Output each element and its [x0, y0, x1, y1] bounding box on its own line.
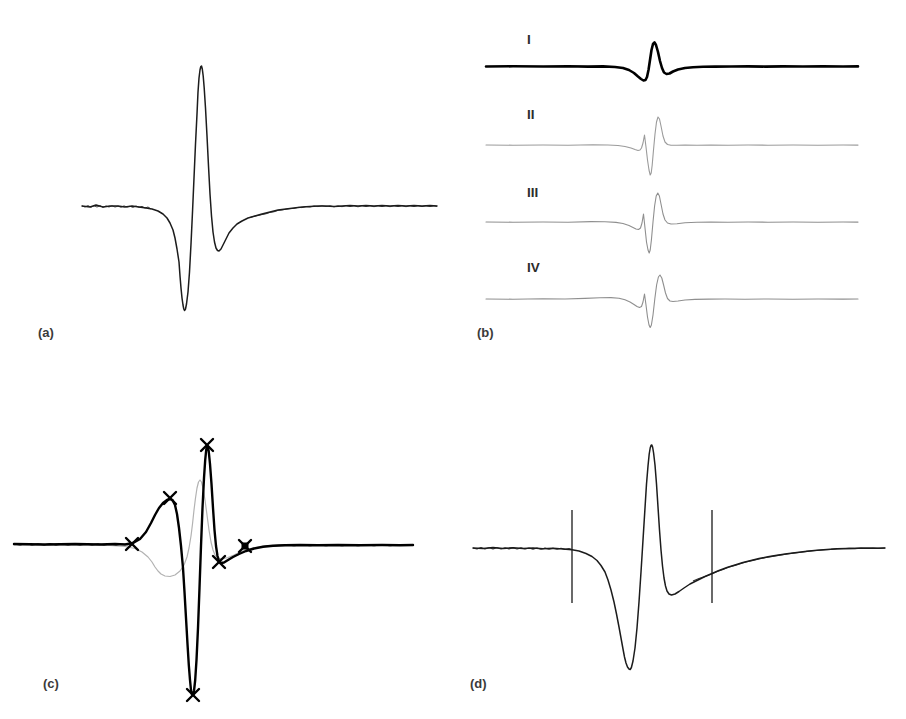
panel-b-trace-label-II: II [527, 107, 535, 122]
panel-b-trace-label-IV: IV [527, 260, 540, 275]
panel-a-label: (a) [38, 325, 54, 340]
spectrum-a-trace [82, 66, 437, 311]
panel-c-bold-trace [14, 446, 413, 695]
panel-c-plot [0, 360, 453, 719]
panel-b-trace-III [486, 193, 858, 253]
panel-b-trace-I [486, 43, 858, 81]
panel-a-plot [0, 0, 453, 360]
panel-c-label: (c) [43, 676, 59, 691]
panel-a [0, 0, 453, 360]
panel-b-trace-IV [486, 275, 858, 328]
panel-b: I II III IV [453, 0, 906, 360]
panel-d-label: (d) [470, 676, 487, 691]
panel-d-plot [453, 360, 906, 719]
panel-b-trace-label-I: I [527, 32, 531, 47]
panel-b-trace-II [486, 117, 858, 175]
panel-c [0, 360, 453, 719]
figure-canvas: (a) I II III IV [0, 0, 906, 719]
spectrum-d-trace [473, 445, 885, 670]
panel-c-x-marker-2 [164, 492, 176, 504]
panel-d [453, 360, 906, 719]
panel-b-plot: I II III IV [453, 0, 906, 360]
panel-b-trace-label-III: III [527, 185, 538, 200]
panel-b-label: (b) [477, 325, 494, 340]
